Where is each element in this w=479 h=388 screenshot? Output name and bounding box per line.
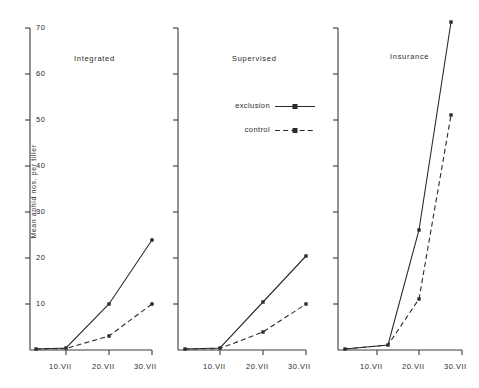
series-control-marker (417, 297, 420, 300)
series-control-marker (261, 330, 264, 333)
series-exclusion-line (36, 240, 152, 349)
series-exclusion-line (345, 22, 451, 349)
panel-title-supervised: Supervised (232, 54, 277, 63)
x-tick-label-30vii: 30.VII (134, 362, 157, 371)
x-tick-label-20vii: 20.VII (92, 362, 115, 371)
x-tick-label-30vii: 30.VII (444, 362, 467, 371)
series-control-marker (449, 113, 452, 116)
series-exclusion-line (185, 256, 306, 349)
y-tick-label-60: 60 (36, 69, 45, 78)
series-exclusion-marker (107, 302, 110, 305)
series-control-line (36, 304, 152, 349)
series-control-marker (107, 334, 110, 337)
y-tick-label-10: 10 (36, 299, 45, 308)
legend-swatch-control (274, 124, 316, 137)
legend-item-exclusion: exclusion (196, 100, 316, 114)
series-exclusion-marker (304, 254, 307, 257)
x-tick-label-20vii: 20.VII (246, 362, 269, 371)
legend-swatch-exclusion (274, 100, 316, 113)
y-tick-label-40: 40 (36, 161, 45, 170)
series-control-line (185, 304, 306, 349)
legend: exclusion control (196, 100, 316, 146)
x-tick-label-10vii: 10.VII (203, 362, 226, 371)
legend-label-exclusion: exclusion (235, 101, 270, 110)
y-tick-label-20: 20 (36, 253, 45, 262)
y-axis-title: Mean aphid nos. per tiller (30, 137, 37, 247)
x-tick-label-20vii: 20.VII (402, 362, 425, 371)
legend-label-control: control (245, 125, 270, 134)
y-tick-label-70: 70 (36, 23, 45, 32)
series-control-line (345, 115, 451, 349)
series-exclusion-marker (150, 238, 153, 241)
series-exclusion-marker (261, 300, 264, 303)
x-tick-label-10vii: 10.VII (49, 362, 72, 371)
y-tick-label-30: 30 (36, 207, 45, 216)
legend-marker-square (293, 104, 298, 109)
x-tick-label-30vii: 30.VII (288, 362, 311, 371)
aphid-population-figure: 70 60 50 40 30 20 10 Mean aphid nos. per… (0, 0, 479, 388)
legend-item-control: control (196, 124, 316, 138)
series-exclusion-marker (449, 20, 452, 23)
panel-title-integrated: Integrated (74, 54, 115, 63)
x-tick-label-10vii: 10.VII (360, 362, 383, 371)
legend-marker-square (293, 128, 298, 133)
panel-title-insurance: Insurance (390, 52, 429, 61)
series-exclusion-marker (417, 228, 420, 231)
y-tick-label-50: 50 (36, 115, 45, 124)
series-control-marker (304, 302, 307, 305)
series-control-marker (150, 302, 153, 305)
